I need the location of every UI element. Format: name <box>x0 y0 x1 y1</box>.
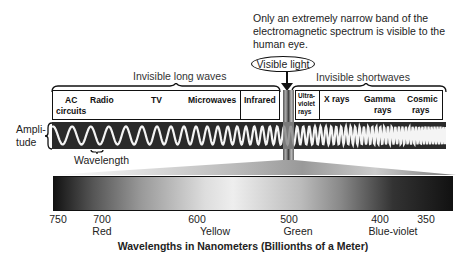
color-blue-violet: Blue-violet <box>363 225 423 237</box>
band-xrays: X rays <box>324 94 350 105</box>
band-uv-1: Ultra- <box>298 92 315 100</box>
color-red: Red <box>72 225 132 237</box>
amplitude-label-2: tude <box>16 136 46 149</box>
band-gamma-2: rays <box>374 105 392 116</box>
amplitude-label-1: Ampli- <box>16 123 46 136</box>
long-waves-label: Invisible long waves <box>133 70 226 82</box>
band-microwaves: Microwaves <box>188 95 236 106</box>
tick-600: 600 <box>177 213 217 225</box>
tick-500: 500 <box>269 213 309 225</box>
infrared-box: Infrared <box>240 90 280 120</box>
short-waves-label: Invisible shortwaves <box>316 71 410 83</box>
tick-400: 400 <box>360 213 400 225</box>
axis-title: Wavelengths in Nanometers (Billionths of… <box>0 240 456 252</box>
band-ac-2: circuits <box>56 106 86 117</box>
color-green: Green <box>268 225 328 237</box>
tick-750: 750 <box>38 213 78 225</box>
visible-band-note: Only an extremely narrow band of the ele… <box>253 12 453 51</box>
wave-visible-strip <box>283 122 294 149</box>
visible-light-label: Visible light <box>251 56 315 72</box>
band-tv: TV <box>151 95 162 106</box>
projection-fan <box>0 160 456 176</box>
color-yellow: Yellow <box>185 225 245 237</box>
uv-box: Ultra- violet rays <box>295 90 321 120</box>
amplitude-label: Ampli- tude <box>16 123 46 149</box>
visible-spectrum-bar <box>53 176 453 211</box>
band-ac: AC <box>65 95 77 106</box>
wave-band <box>52 122 446 149</box>
band-infrared: Infrared <box>244 95 276 106</box>
band-uv-3: rays <box>298 108 311 116</box>
band-uv-2: violet <box>298 100 315 108</box>
band-cosmic: Cosmic <box>407 94 438 105</box>
tick-700: 700 <box>82 213 122 225</box>
band-radio: Radio <box>90 95 114 106</box>
long-waves-box: AC circuits Radio TV Microwaves <box>52 90 248 120</box>
band-cosmic-2: rays <box>412 105 430 116</box>
band-gamma: Gamma <box>364 94 395 105</box>
short-waves-box: X rays Gamma rays Cosmic rays <box>319 90 443 120</box>
tick-350: 350 <box>406 213 446 225</box>
